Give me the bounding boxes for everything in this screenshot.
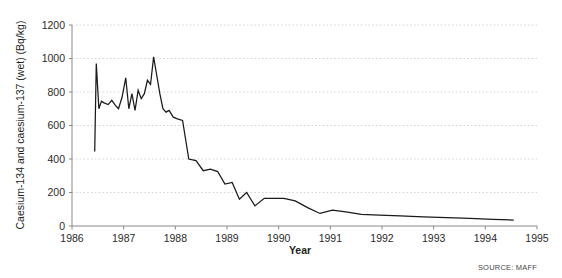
y-tick-label: 1000 — [42, 52, 66, 64]
y-tick-label: 400 — [47, 153, 65, 165]
x-tick-label: 1995 — [525, 232, 549, 244]
y-tick-label: 1200 — [42, 19, 66, 31]
gridlines — [72, 25, 537, 193]
x-tick-label: 1988 — [164, 232, 188, 244]
x-tick-label: 1992 — [370, 232, 394, 244]
y-tick-label: 600 — [47, 119, 65, 131]
x-tick-label: 1990 — [267, 232, 291, 244]
x-tick-label: 1991 — [319, 232, 343, 244]
y-axis-title: Caesium-134 and caesium-137 (wet) (Bq/kg… — [14, 21, 26, 230]
y-axis-ticks: 020040060080010001200 — [42, 19, 72, 232]
x-axis-title: Year — [289, 244, 311, 256]
x-tick-label: 1986 — [60, 232, 84, 244]
source-note: SOURCE: MAFF — [478, 263, 537, 272]
x-tick-label: 1994 — [474, 232, 498, 244]
x-tick-label: 1987 — [112, 232, 136, 244]
line-chart: 020040060080010001200 198619871988198919… — [0, 0, 562, 278]
x-tick-label: 1989 — [215, 232, 239, 244]
chart-figure: 020040060080010001200 198619871988198919… — [0, 0, 562, 278]
y-tick-label: 200 — [47, 186, 65, 198]
y-tick-label: 800 — [47, 86, 65, 98]
data-series-line — [95, 57, 514, 220]
y-tick-label: 0 — [59, 220, 65, 232]
x-tick-label: 1993 — [422, 232, 446, 244]
x-axis-ticks: 1986198719881989199019911992199319941995 — [60, 226, 549, 244]
